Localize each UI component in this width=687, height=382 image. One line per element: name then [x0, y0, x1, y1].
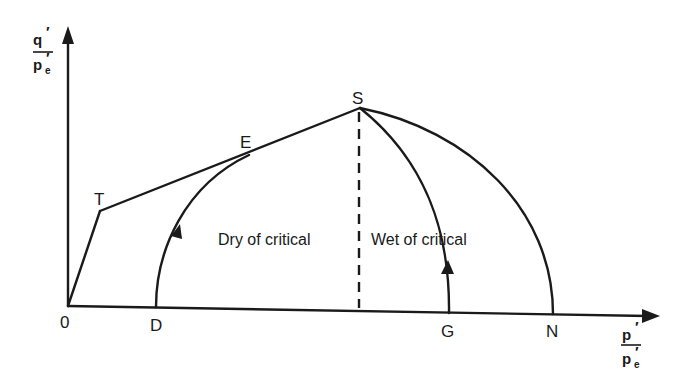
- tension-cutoff-line: [68, 211, 100, 306]
- origin-label: 0: [60, 313, 69, 332]
- point-label-s: S: [352, 89, 363, 108]
- x-axis-label: p ′ p ′ e: [621, 318, 641, 370]
- point-label-t: T: [94, 190, 104, 209]
- svg-text:′: ′: [46, 49, 50, 66]
- svg-text:p: p: [622, 326, 631, 343]
- y-axis-label: q ′ p ′ e: [33, 23, 53, 76]
- svg-text:p: p: [33, 56, 42, 73]
- svg-text:e: e: [45, 65, 51, 76]
- point-label-e: E: [240, 133, 251, 152]
- hvorslev-surface-line: [100, 108, 360, 211]
- roscoe-surface-line: [360, 108, 553, 314]
- svg-text:p: p: [622, 350, 631, 367]
- wet-path-arrow-icon: [441, 260, 454, 274]
- point-label-d: D: [150, 316, 162, 335]
- wet-stress-path: [360, 108, 449, 313]
- svg-text:′: ′: [635, 343, 639, 360]
- x-axis-arrow-icon: [642, 309, 660, 323]
- svg-text:q: q: [33, 31, 42, 48]
- svg-text:′: ′: [635, 318, 639, 335]
- point-label-g: G: [441, 322, 454, 341]
- region-label-dry: Dry of critical: [218, 231, 310, 248]
- y-axis-arrow-icon: [62, 26, 74, 44]
- y-axis: [62, 26, 74, 306]
- point-label-n: N: [546, 322, 558, 341]
- svg-text:′: ′: [46, 23, 50, 40]
- svg-text:e: e: [634, 359, 640, 370]
- critical-state-diagram: q ′ p ′ e p ′ p ′ e 0 D G N T E S Dry of…: [0, 0, 687, 382]
- region-label-wet: Wet of critical: [371, 231, 467, 248]
